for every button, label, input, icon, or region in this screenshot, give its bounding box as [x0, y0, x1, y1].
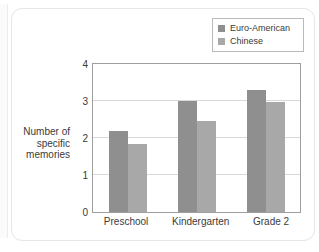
x-tick-label: Grade 2	[253, 216, 289, 232]
bar-group	[178, 64, 216, 212]
y-tick-label: 0	[74, 208, 88, 218]
bar-group	[247, 64, 285, 212]
x-tick-label: Kindergarten	[172, 216, 229, 232]
y-axis-ticks: 01234	[72, 63, 88, 213]
legend-item-euro-american: Euro-American	[218, 22, 298, 34]
y-tick-label: 4	[74, 60, 88, 70]
bar-chart-figure: Euro-American Chinese Number of specific…	[0, 0, 319, 252]
y-tick-label: 3	[74, 97, 88, 107]
bar-group	[109, 64, 147, 212]
bar-chinese	[128, 144, 147, 212]
legend-swatch-chinese	[218, 38, 225, 45]
y-tick-label: 1	[74, 171, 88, 181]
legend-item-chinese: Chinese	[218, 35, 298, 47]
y-axis-title-line-1: Number of	[10, 126, 70, 138]
y-axis-title-line-3: memories	[10, 149, 70, 161]
legend-label-chinese: Chinese	[230, 36, 263, 47]
legend-swatch-euro-american	[218, 25, 225, 32]
bar-chinese	[197, 121, 216, 212]
bar-euro-american	[247, 90, 266, 212]
bar-euro-american	[109, 131, 128, 212]
bar-groups	[93, 64, 300, 212]
bar-chinese	[266, 102, 285, 212]
bar-euro-american	[178, 101, 197, 212]
chart-legend: Euro-American Chinese	[212, 18, 304, 52]
y-tick-label: 2	[74, 134, 88, 144]
legend-label-euro-american: Euro-American	[230, 23, 290, 34]
plot-inner	[93, 64, 300, 212]
y-axis-title: Number of specific memories	[10, 126, 70, 161]
x-axis-ticks: PreschoolKindergartenGrade 2	[92, 216, 301, 232]
y-axis-title-line-2: specific	[10, 138, 70, 150]
x-tick-label: Preschool	[104, 216, 148, 232]
plot-area	[92, 63, 301, 213]
